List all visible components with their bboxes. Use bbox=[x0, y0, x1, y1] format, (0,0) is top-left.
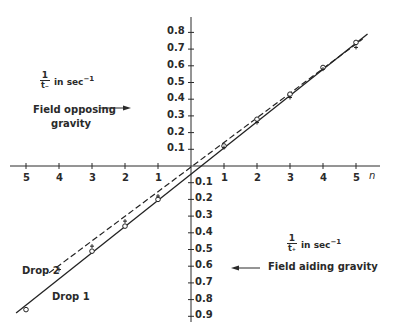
x-tick-label: 4 bbox=[320, 172, 327, 183]
y-tick-label: 0.1 bbox=[167, 142, 185, 153]
y-tick-label: 0.8 bbox=[195, 293, 213, 304]
x-tick-label: 2 bbox=[122, 172, 129, 183]
drop1-point bbox=[24, 307, 29, 312]
x-tick-label: 5 bbox=[23, 172, 30, 183]
y-tick-label: 0.3 bbox=[195, 209, 213, 220]
drop1-point bbox=[354, 40, 359, 45]
x-tick-label: 3 bbox=[89, 172, 96, 183]
drop2-point bbox=[90, 244, 94, 248]
field-opposing-label: Field opposing bbox=[33, 104, 116, 115]
x-tick-label: 1 bbox=[221, 172, 228, 183]
y-tick-label: 0.7 bbox=[195, 276, 213, 287]
x-tick-label: 1 bbox=[155, 172, 162, 183]
upper-y-axis-label: 1 t₋ in sec−1 bbox=[40, 70, 50, 90]
y-tick-label: 0.5 bbox=[167, 76, 185, 87]
drop1-point bbox=[90, 249, 95, 254]
y-tick-label: 0.4 bbox=[167, 92, 185, 103]
y-tick-label: 0.2 bbox=[195, 192, 213, 203]
x-tick-label: 2 bbox=[254, 172, 261, 183]
drop1-legend-label: Drop 1 bbox=[52, 291, 90, 302]
lower-y-axis-label: 1 t₊ in sec−1 bbox=[287, 233, 297, 253]
x-tick-label: 5 bbox=[353, 172, 360, 183]
y-tick-label: 0.6 bbox=[195, 259, 213, 270]
y-tick-label: 0.1 bbox=[195, 176, 213, 187]
x-tick-label: 4 bbox=[56, 172, 63, 183]
y-tick-label: 0.3 bbox=[167, 109, 185, 120]
y-tick-label: 0.2 bbox=[167, 126, 185, 137]
y-tick-label: 0.4 bbox=[195, 226, 213, 237]
drop2-point bbox=[354, 45, 358, 49]
drop2-legend-label: Drop 2 bbox=[22, 265, 60, 276]
field-aiding-label: Field aiding gravity bbox=[268, 261, 378, 272]
x-tick-label: 3 bbox=[287, 172, 294, 183]
field-opposing-label-line2: gravity bbox=[51, 118, 91, 129]
y-tick-label: 0.8 bbox=[167, 25, 185, 36]
y-tick-label: 0.9 bbox=[195, 309, 213, 320]
y-tick-label: 0.5 bbox=[195, 243, 213, 254]
drop2-point bbox=[123, 219, 127, 223]
y-tick-label: 0.6 bbox=[167, 59, 185, 70]
drop1-point bbox=[123, 224, 128, 229]
y-tick-label: 0.7 bbox=[167, 42, 185, 53]
x-axis-label: n bbox=[369, 170, 375, 181]
